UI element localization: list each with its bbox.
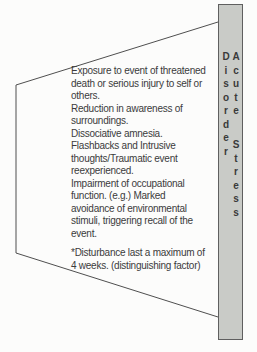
distinguishing-note: *Disturbance last a maximum of 4 weeks. … (71, 247, 221, 272)
disorder-title-bar: Acute Stress Disorder (218, 4, 243, 340)
symptom-line: event. (71, 228, 221, 241)
symptom-line: reexperienced. (71, 165, 221, 178)
symptom-line: Impairment of occupational (71, 178, 221, 191)
symptom-line: surroundings. (71, 115, 221, 128)
symptom-line: avoidance of environmental (71, 203, 221, 216)
disorder-title-label: Acute Stress Disorder (221, 51, 241, 339)
symptom-line: Exposure to event of threatened (71, 65, 221, 78)
symptom-line: function. (e.g.) Marked (71, 190, 221, 203)
diagram-canvas: Exposure to event of threatened death or… (0, 0, 257, 352)
symptom-line: stimuli, triggering recall of the (71, 215, 221, 228)
symptom-line: death or serious injury to self or (71, 78, 221, 91)
symptom-text-block: Exposure to event of threatened death or… (71, 65, 221, 272)
symptom-line: Reduction in awareness of (71, 103, 221, 116)
symptom-line: Dissociative amnesia. (71, 128, 221, 141)
note-line: *Disturbance last a maximum of (71, 247, 221, 260)
symptom-line: others. (71, 90, 221, 103)
symptom-line: thoughts/Traumatic event (71, 153, 221, 166)
symptom-line: Flashbacks and Intrusive (71, 140, 221, 153)
note-line: 4 weeks. (distinguishing factor) (71, 260, 221, 273)
